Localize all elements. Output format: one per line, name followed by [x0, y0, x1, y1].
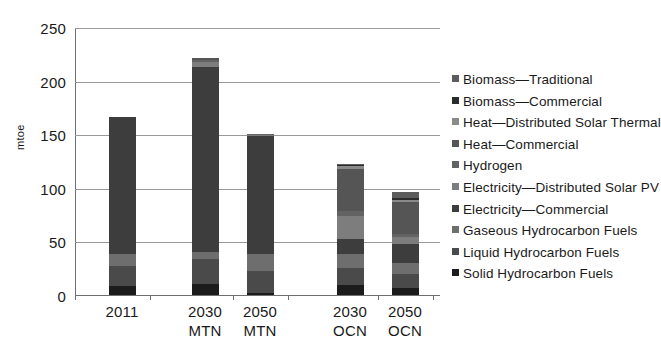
bar-2050-MTN[interactable]	[247, 134, 274, 295]
x-axis-label-2050-OCN: 2050 OCN	[365, 302, 445, 340]
legend-label: Electricity—Distributed Solar PV	[463, 177, 659, 199]
legend-item-0[interactable]: Biomass—Traditional	[452, 69, 648, 91]
legend-swatch-icon	[452, 205, 459, 212]
gridline-250	[75, 28, 440, 29]
legend-item-7[interactable]: Gaseous Hydrocarbon Fuels	[452, 220, 648, 242]
x-axis-tickmark	[233, 295, 234, 300]
bar-segment	[109, 117, 136, 254]
legend-swatch-icon	[452, 97, 459, 104]
bar-segment	[247, 136, 274, 254]
chart-legend: Biomass—TraditionalBiomass—CommercialHea…	[452, 69, 648, 285]
y-axis-tick-50: 50	[49, 234, 66, 251]
bar-segment	[392, 202, 419, 234]
legend-label: Biomass—Traditional	[463, 69, 593, 91]
bar-segment	[247, 293, 274, 295]
y-axis-tick-150: 150	[40, 127, 66, 144]
legend-label: Liquid Hydrocarbon Fuels	[463, 242, 619, 264]
legend-label: Electricity—Commercial	[463, 199, 608, 221]
legend-swatch-icon	[452, 75, 459, 82]
legend-label: Heat—Commercial	[463, 134, 579, 156]
legend-item-5[interactable]: Electricity—Distributed Solar PV	[452, 177, 648, 199]
legend-item-1[interactable]: Biomass—Commercial	[452, 91, 648, 113]
bar-segment	[392, 274, 419, 288]
gridline-200	[75, 82, 440, 83]
bar-2050-OCN[interactable]	[392, 192, 419, 295]
y-axis-tick-100: 100	[40, 180, 66, 197]
legend-label: Hydrogen	[463, 155, 522, 177]
legend-swatch-icon	[452, 183, 459, 190]
bar-segment	[192, 259, 219, 285]
legend-swatch-icon	[452, 269, 459, 276]
bar-2030-MTN[interactable]	[192, 58, 219, 295]
bar-segment	[109, 266, 136, 286]
bar-segment	[109, 254, 136, 266]
x-axis-tickmark	[288, 295, 289, 300]
bar-segment	[337, 254, 364, 268]
y-axis-tick-200: 200	[40, 73, 66, 90]
x-axis-line	[75, 295, 440, 296]
legend-item-4[interactable]: Hydrogen	[452, 155, 648, 177]
y-axis-tick-labels: 050100150200250	[14, 0, 66, 354]
bar-segment	[392, 288, 419, 296]
legend-swatch-icon	[452, 161, 459, 168]
legend-label: Gaseous Hydrocarbon Fuels	[463, 220, 637, 242]
x-axis-tickmark	[433, 295, 434, 300]
legend-swatch-icon	[452, 226, 459, 233]
legend-item-6[interactable]: Electricity—Commercial	[452, 199, 648, 221]
bar-segment	[392, 244, 419, 263]
bar-segment	[337, 216, 364, 240]
y-axis-tick-250: 250	[40, 20, 66, 37]
bar-segment	[337, 268, 364, 285]
legend-label: Heat—Distributed Solar Thermal	[463, 112, 661, 134]
x-axis-tickmark-origin	[75, 295, 76, 300]
bar-segment	[392, 263, 419, 274]
legend-item-3[interactable]: Heat—Commercial	[452, 134, 648, 156]
legend-item-8[interactable]: Liquid Hydrocarbon Fuels	[452, 242, 648, 264]
legend-swatch-icon	[452, 140, 459, 147]
x-axis-tickmark	[150, 295, 151, 300]
bar-segment	[192, 67, 219, 252]
x-axis-label-2011: 2011	[82, 302, 162, 321]
legend-item-2[interactable]: Heat—Distributed Solar Thermal	[452, 112, 648, 134]
plot-area	[75, 28, 440, 296]
legend-label: Solid Hydrocarbon Fuels	[463, 263, 613, 285]
legend-item-9[interactable]: Solid Hydrocarbon Fuels	[452, 263, 648, 285]
legend-swatch-icon	[452, 248, 459, 255]
legend-label: Biomass—Commercial	[463, 91, 602, 113]
bar-segment	[192, 284, 219, 295]
bar-segment	[337, 239, 364, 254]
bar-segment	[109, 286, 136, 295]
bar-2030-OCN[interactable]	[337, 164, 364, 295]
bar-segment	[247, 254, 274, 271]
x-axis-label-2050-MTN: 2050 MTN	[220, 302, 300, 340]
bar-segment	[337, 285, 364, 295]
y-axis-title: mtoe	[14, 124, 26, 150]
bar-segment	[337, 169, 364, 212]
bar-2011[interactable]	[109, 117, 136, 295]
y-axis-line	[75, 28, 76, 296]
legend-swatch-icon	[452, 118, 459, 125]
bar-segment	[247, 271, 274, 292]
x-axis-tickmark	[378, 295, 379, 300]
y-axis-tick-0: 0	[57, 288, 66, 305]
